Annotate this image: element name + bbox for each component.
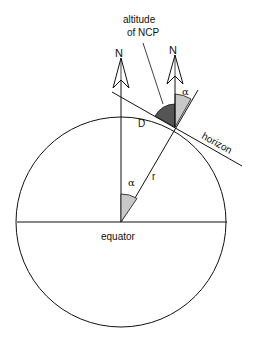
alpha-center-wedge: [121, 194, 137, 222]
north-label-left: N: [115, 47, 123, 59]
alpha-top-wedge: [175, 94, 191, 127]
radius-label: r: [152, 171, 156, 182]
equator-label: equator: [101, 231, 136, 242]
altitude-label-line1: altitude: [123, 14, 156, 25]
alpha-label-center: α: [128, 177, 135, 188]
point-d-label: D: [138, 118, 145, 129]
altitude-pointer: [143, 43, 163, 104]
latitude-diagram: N N altitude of NCP α α D r equator hori…: [0, 0, 256, 339]
diagram-canvas: N N altitude of NCP α α D r equator hori…: [0, 0, 256, 339]
altitude-label-line2: of NCP: [127, 27, 160, 38]
north-label-right: N: [169, 44, 177, 56]
alpha-label-top: α: [182, 86, 189, 97]
